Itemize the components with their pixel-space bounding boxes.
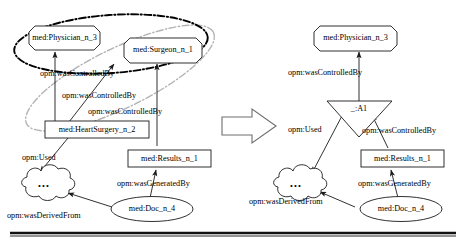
node-surgeon-left-label: med:Surgeon_n_1 xyxy=(133,45,193,54)
edge-doc-cloud-right xyxy=(320,192,355,207)
node-cloud-left[interactable]: ••• xyxy=(22,165,75,201)
edge-label-wascontrolledby-right-1: opm:wasControlledBy xyxy=(288,68,363,77)
node-cloud-right-label: ••• xyxy=(290,182,302,191)
edge-label-wascontrolledby-1: opm:wasControlledBy xyxy=(40,69,115,78)
edge-label-wascontrolledby-2: opm:wasControlledBy xyxy=(62,91,137,100)
edge-label-wasgeneratedby-left: opm:wasGeneratedBy xyxy=(117,179,191,188)
node-physician-left[interactable]: med:Physician_n_3 xyxy=(29,26,100,50)
node-a1-right-label: _:A1 xyxy=(350,104,367,113)
figure-canvas: med:Physician_n_3 med:Surgeon_n_1 med:He… xyxy=(0,0,466,242)
edge-label-wasderivedfrom-right: opm:wasDerivedFrom xyxy=(249,197,323,206)
node-cloud-right[interactable]: ••• xyxy=(274,165,327,201)
edge-label-wasderivedfrom-left: opm:wasDerivedFrom xyxy=(7,211,81,220)
edge-a1-cloud xyxy=(312,112,344,173)
node-surgeon-left[interactable]: med:Surgeon_n_1 xyxy=(124,38,202,63)
node-results-left-label: med:Results_n_1 xyxy=(141,154,198,163)
node-results-right-label: med:Results_n_1 xyxy=(374,154,431,163)
node-heartsurgery-left-label: med:HeartSurgery_n_2 xyxy=(59,125,136,134)
node-doc-right-label: med:Doc_n_4 xyxy=(378,204,424,213)
node-doc-right[interactable]: med:Doc_n_4 xyxy=(360,197,442,222)
edge-label-wascontrolledby-right-2: opm:wasControlledBy xyxy=(362,126,437,135)
node-results-left[interactable]: med:Results_n_1 xyxy=(128,150,211,167)
bottom-horizontal-rule xyxy=(10,233,456,236)
node-doc-left-label: med:Doc_n_4 xyxy=(129,204,175,213)
transformation-arrow xyxy=(222,109,276,143)
node-results-right[interactable]: med:Results_n_1 xyxy=(361,150,444,167)
node-doc-left[interactable]: med:Doc_n_4 xyxy=(111,197,193,222)
edge-label-wasgeneratedby-right: opm:wasGeneratedBy xyxy=(358,179,432,188)
node-cloud-left-label: ••• xyxy=(38,182,50,191)
edge-doc-cloud xyxy=(68,193,112,207)
node-physician-right[interactable]: med:Physician_n_3 xyxy=(314,26,397,51)
node-physician-left-label: med:Physician_n_3 xyxy=(32,33,97,42)
node-physician-right-label: med:Physician_n_3 xyxy=(323,33,388,42)
node-heartsurgery-left[interactable]: med:HeartSurgery_n_2 xyxy=(45,121,149,138)
edge-label-wascontrolledby-3: opm:wasControlledBy xyxy=(88,107,163,116)
edge-label-used-left: opm:Used xyxy=(22,153,56,162)
edge-label-used-right: opm:Used xyxy=(288,125,322,134)
